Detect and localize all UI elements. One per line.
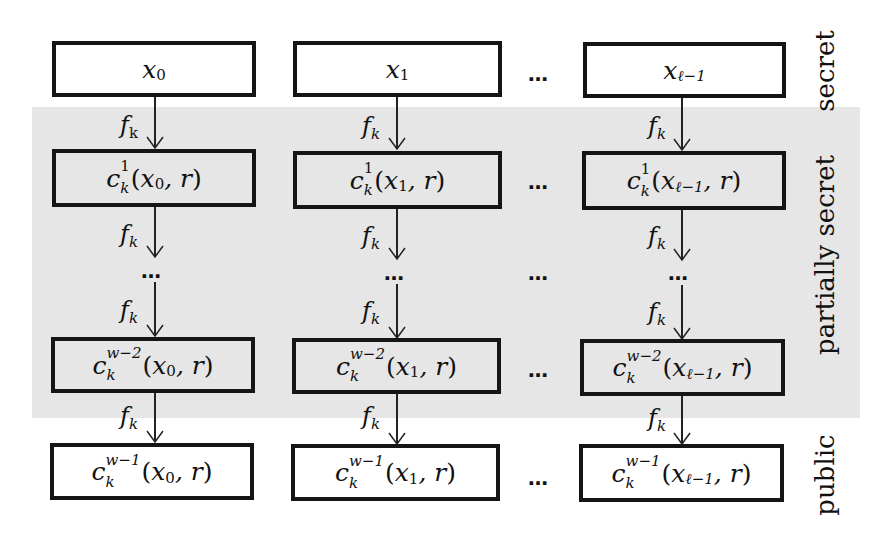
var-index: ℓ−1 [677, 67, 705, 85]
var-index: 0 [156, 66, 166, 84]
cw1-box-xl-1: cw−1k(xℓ−1, r) [579, 444, 784, 502]
cw2-box-x0: cw−2k(x0, r) [51, 337, 255, 393]
cw2-box-x1: cw−2k(x1, r) [292, 338, 501, 394]
fk-label: fk [648, 300, 666, 324]
fk-label: fk [120, 298, 138, 322]
input-box-x1: x1 [293, 41, 502, 97]
label-public: public [810, 425, 840, 525]
fk-label: fk [120, 113, 138, 137]
cw2-box-xl-1: cw−2k(xℓ−1, r) [580, 339, 785, 396]
fk-label: fk [120, 222, 138, 246]
var-base: x [142, 55, 156, 84]
var-base: x [663, 56, 677, 85]
fk-label: fk [362, 114, 380, 138]
input-box-xl-1: xℓ−1 [583, 42, 786, 98]
c1-box-x1: c1k(x1, r) [293, 151, 502, 209]
label-partially-secret: partially secret [810, 155, 840, 355]
ellipsis-row-0: … [528, 64, 549, 84]
ellipsis-row-w1: … [528, 468, 549, 488]
fk-label: fk [362, 299, 380, 323]
c1-box-xl-1: c1k(xℓ−1, r) [582, 151, 786, 210]
var-index: 1 [400, 66, 410, 84]
ellipsis-middle: … [528, 263, 549, 283]
cw1-box-x1: cw−1k(x1, r) [291, 444, 500, 501]
fk-label: fk [648, 114, 666, 138]
ellipsis-col-2: … [668, 263, 689, 283]
fk-label: fk [648, 224, 666, 248]
fk-label: fk [120, 404, 138, 428]
ellipsis-col-0: … [141, 261, 162, 281]
fk-label: fk [362, 404, 380, 428]
ellipsis-row-w2: … [528, 360, 549, 380]
var-base: x [386, 55, 400, 84]
cw1-box-x0: cw−1k(x0, r) [50, 443, 254, 500]
label-secret: secret [810, 21, 840, 121]
input-box-x0: x0 [52, 41, 256, 97]
fk-label: fk [362, 224, 380, 248]
c1-box-x0: c1k(x0, r) [52, 149, 256, 207]
ellipsis-row-1: … [528, 172, 549, 192]
ellipsis-col-1: … [384, 263, 405, 283]
fk-label: fk [648, 406, 666, 430]
